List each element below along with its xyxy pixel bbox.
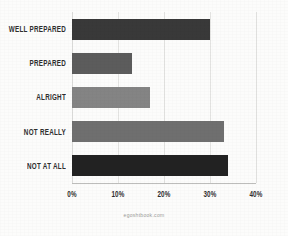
x-tick-label: 20% [157,188,170,198]
bar-chart: WELL PREPAREDPREPAREDALRIGHTNOT REALLYNO… [0,0,288,236]
bar-row [72,46,132,80]
x-tick-label: 0% [67,188,77,198]
bar [72,121,224,142]
watermark-source: egoshtbook.com [0,212,288,218]
bar [72,53,132,74]
category-label: WELL PREPARED [9,25,66,34]
bar-row [72,80,150,114]
x-tick-label: 10% [111,188,124,198]
bar-row [72,149,228,183]
bar [72,87,150,108]
category-label: NOT AT ALL [27,161,66,170]
x-tick-label: 30% [203,188,216,198]
bar [72,155,228,176]
x-axis-line [72,183,256,184]
category-label: NOT REALLY [24,127,66,136]
bar-row [72,115,224,149]
x-tick-label: 40% [249,188,262,198]
bar [72,19,210,40]
bar-row [72,12,210,46]
plot-area [72,12,256,183]
gridline-40pct [256,12,257,183]
category-label: ALRIGHT [36,93,66,102]
category-label: PREPARED [29,59,66,68]
